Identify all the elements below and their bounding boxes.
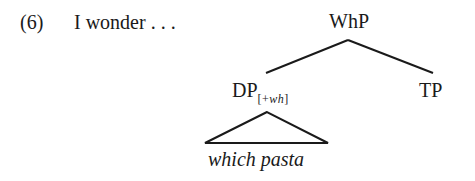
dp-label: DP: [232, 79, 258, 101]
wh-feature: wh: [269, 92, 284, 106]
branch-root-to-tp: [348, 40, 433, 73]
tree-node-whp: WhP: [329, 11, 369, 31]
tree-node-tp: TP: [419, 80, 442, 100]
branch-root-to-dp: [266, 40, 348, 73]
tree-node-dp: DP[+wh]: [232, 80, 289, 100]
dp-feature-subscript: [+wh]: [258, 92, 289, 106]
dp-triangle: [205, 112, 328, 143]
tree-leaf-phrase: which pasta: [208, 149, 304, 169]
